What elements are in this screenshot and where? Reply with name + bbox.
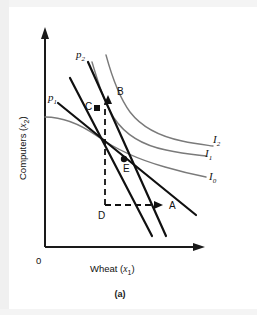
budget-line-compensated: [70, 78, 152, 236]
origin-label: 0: [36, 255, 41, 266]
point-marker-C-square: [94, 105, 100, 111]
point-label-E: E: [123, 163, 130, 174]
x-axis-title-name: Wheat: [90, 263, 118, 274]
budget-label-subscript-p2: 2: [82, 55, 86, 63]
y-axis-title-name: Computers: [17, 133, 28, 180]
figure-container: B C A D E p2 p1 I2 I1 I0: [0, 0, 257, 315]
figure-caption: (a): [115, 289, 126, 299]
budget-line-label-p1: p1: [47, 91, 57, 106]
y-axis-title: Computers (x2): [17, 116, 30, 180]
indifference-curves-group: [45, 55, 213, 177]
ind-label-subscript-I1: 1: [209, 154, 213, 162]
x-axis-arrowhead: [193, 243, 205, 251]
indifference-curve-label-I1: I1: [204, 147, 212, 162]
point-marker-E-dot: [121, 156, 127, 162]
budget-line-label-p2: p2: [75, 48, 86, 63]
point-label-D: D: [98, 210, 105, 221]
ind-label-subscript-I2: 2: [217, 140, 221, 148]
point-marker-A-arrowhead: [154, 201, 163, 209]
point-label-C: C: [85, 101, 92, 112]
indifference-curve-I2: [106, 55, 213, 146]
axis-titles-group: 0 Wheat (x1) Computers (x2): [17, 116, 135, 275]
y-axis-arrowhead: [41, 27, 49, 39]
x-axis-title: Wheat (x1): [90, 263, 135, 276]
point-label-B: B: [117, 86, 124, 97]
budget-label-subscript-p1: 1: [54, 98, 58, 106]
ind-label-subscript-I0: 0: [213, 177, 217, 185]
point-label-A: A: [169, 200, 176, 211]
economics-indifference-diagram: B C A D E p2 p1 I2 I1 I0: [0, 0, 257, 315]
indifference-curve-label-I0: I0: [208, 170, 217, 185]
